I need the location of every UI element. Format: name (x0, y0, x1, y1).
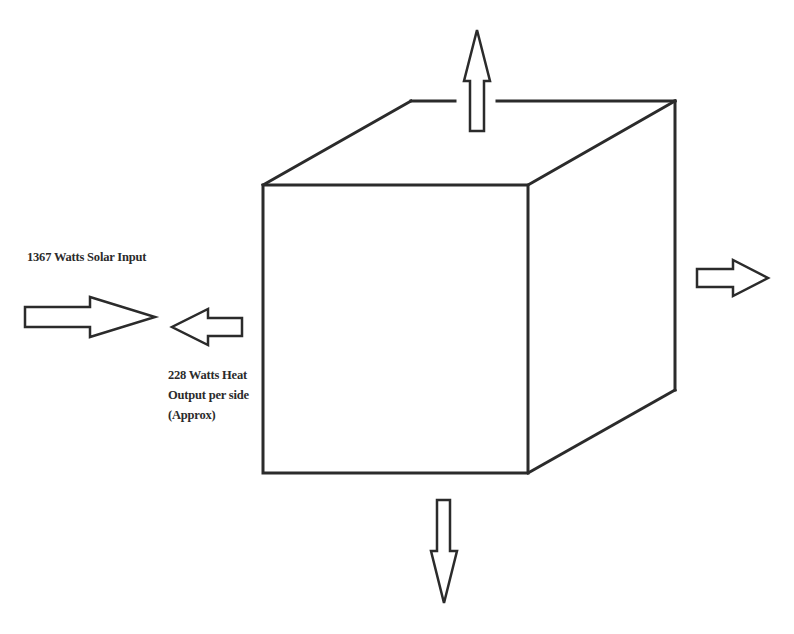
cube-top-right-edge (528, 101, 675, 185)
heat-output-up-arrow-icon (464, 30, 490, 131)
cube-energy-diagram (0, 0, 794, 634)
heat-output-label-line-3: (Approx) (168, 405, 249, 425)
cube-top-left-edge (263, 101, 411, 185)
cube-front-face (263, 185, 528, 473)
solar-input-arrow-icon (25, 297, 155, 337)
heat-output-down-arrow-icon (431, 500, 457, 603)
heat-output-left-arrow-icon (172, 309, 242, 345)
heat-output-label-line-2: Output per side (168, 385, 249, 405)
heat-output-right-arrow-icon (697, 260, 768, 296)
solar-input-label: 1367 Watts Solar Input (27, 247, 146, 267)
cube-bottom-right-edge (528, 390, 675, 473)
heat-output-label-line-1: 228 Watts Heat (168, 365, 249, 385)
heat-output-label: 228 Watts Heat Output per side (Approx) (168, 365, 249, 425)
